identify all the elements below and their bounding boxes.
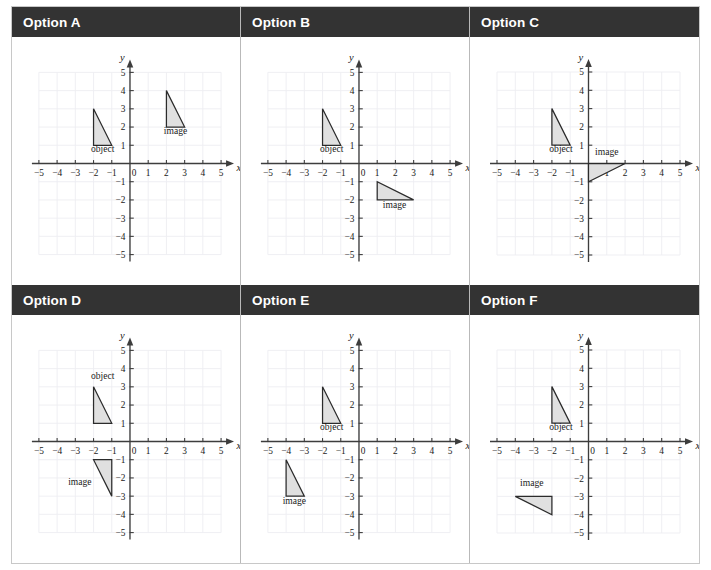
- x-axis-label: x: [236, 162, 240, 173]
- image-label: image: [164, 125, 187, 136]
- x-tick-label: 4: [201, 446, 206, 456]
- y-tick-label: 1: [350, 419, 355, 429]
- origin-label: 0: [132, 168, 137, 178]
- x-tick-label: 3: [182, 168, 187, 178]
- option-banner-c: Option C: [470, 7, 699, 37]
- y-tick-label: 3: [350, 104, 355, 114]
- x-axis-arrow: [685, 438, 693, 445]
- y-tick-label: −3: [115, 492, 125, 502]
- y-tick-label: −1: [574, 455, 584, 465]
- coordinate-plane: −5−4−3−2−11234554321−1−2−3−4−50xyobjecti…: [241, 37, 469, 285]
- x-tick-label: 2: [393, 446, 398, 456]
- y-tick-label: 4: [579, 86, 584, 96]
- option-cell-e[interactable]: Option E−5−4−3−2−11234554321−1−2−3−4−50x…: [241, 285, 470, 563]
- x-tick-label: −5: [263, 446, 273, 456]
- y-tick-label: 3: [579, 104, 584, 114]
- y-tick-label: 2: [121, 400, 126, 410]
- x-tick-label: 5: [448, 446, 453, 456]
- x-axis-label: x: [465, 440, 469, 451]
- object-label: object: [91, 143, 115, 154]
- x-axis-label: x: [236, 440, 240, 451]
- x-tick-label: 5: [219, 168, 224, 178]
- image-label: image: [68, 476, 91, 487]
- y-tick-label: −2: [344, 473, 354, 483]
- object-label: object: [320, 421, 344, 432]
- y-tick-label: 4: [350, 364, 355, 374]
- y-tick-label: 5: [579, 345, 584, 355]
- object-label: object: [549, 421, 573, 432]
- coordinate-plane: −5−4−3−2−11234554321−1−2−3−4−50xyobjecti…: [12, 315, 240, 563]
- y-tick-label: 3: [579, 382, 584, 392]
- image-label: image: [383, 199, 406, 210]
- y-axis-label: y: [119, 52, 125, 63]
- x-axis-arrow: [455, 438, 463, 445]
- x-tick-label: 4: [430, 168, 435, 178]
- y-tick-label: −2: [115, 473, 125, 483]
- y-tick-label: −5: [115, 250, 125, 260]
- option-plot-e: −5−4−3−2−11234554321−1−2−3−4−50xyobjecti…: [241, 315, 469, 563]
- option-cell-b[interactable]: Option B−5−4−3−2−11234554321−1−2−3−4−50x…: [241, 7, 470, 285]
- y-tick-label: 1: [579, 141, 584, 151]
- y-tick-label: −3: [574, 214, 584, 224]
- x-tick-label: −3: [529, 446, 539, 456]
- x-tick-label: −3: [299, 168, 309, 178]
- y-axis-label: y: [577, 52, 583, 63]
- y-axis-arrow: [356, 337, 363, 345]
- coordinate-plane: −5−4−3−2−11234554321−1−2−3−4−50xyobjecti…: [241, 315, 469, 563]
- options-page: Option A−5−4−3−2−11234554321−1−2−3−4−50x…: [0, 0, 711, 570]
- y-tick-label: 5: [350, 68, 355, 78]
- y-tick-label: −1: [115, 455, 125, 465]
- y-tick-label: −4: [574, 510, 584, 520]
- y-tick-label: −5: [574, 250, 584, 260]
- option-banner-label: Option C: [481, 15, 539, 30]
- y-tick-label: 1: [350, 141, 355, 151]
- x-axis-arrow: [226, 160, 234, 167]
- option-cell-c[interactable]: Option C−5−4−3−2−11234554321−1−2−3−4−50x…: [470, 7, 699, 285]
- y-axis-label: y: [348, 330, 354, 341]
- y-axis-arrow: [127, 59, 134, 67]
- origin-label: 0: [132, 446, 137, 456]
- x-tick-label: −3: [70, 168, 80, 178]
- x-tick-label: −3: [299, 446, 309, 456]
- x-tick-label: 4: [430, 446, 435, 456]
- y-tick-label: −1: [115, 177, 125, 187]
- option-banner-label: Option D: [23, 293, 81, 308]
- option-banner-label: Option A: [23, 15, 81, 30]
- y-tick-label: −4: [344, 510, 354, 520]
- coordinate-plane: −5−4−3−2−11234554321−1−2−3−4−50xyobjecti…: [470, 37, 699, 285]
- x-tick-label: −4: [52, 446, 62, 456]
- option-plot-c: −5−4−3−2−11234554321−1−2−3−4−50xyobjecti…: [470, 37, 699, 285]
- y-tick-label: −2: [115, 195, 125, 205]
- x-axis-label: x: [695, 162, 700, 173]
- x-tick-label: 2: [623, 446, 628, 456]
- x-tick-label: 5: [678, 168, 683, 178]
- x-tick-label: −2: [89, 168, 99, 178]
- x-tick-label: 3: [641, 446, 646, 456]
- x-tick-label: 2: [164, 168, 169, 178]
- option-cell-a[interactable]: Option A−5−4−3−2−11234554321−1−2−3−4−50x…: [12, 7, 241, 285]
- x-tick-label: 1: [146, 168, 151, 178]
- y-axis-arrow: [585, 59, 592, 67]
- x-tick-label: 5: [448, 168, 453, 178]
- object-label: object: [549, 143, 573, 154]
- x-tick-label: 5: [219, 446, 224, 456]
- option-cell-f[interactable]: Option F−5−4−3−2−11234554321−1−2−3−4−50x…: [470, 285, 699, 563]
- x-tick-label: 1: [146, 446, 151, 456]
- x-tick-label: −4: [281, 168, 291, 178]
- y-tick-label: −5: [344, 250, 354, 260]
- x-tick-label: −5: [34, 446, 44, 456]
- x-tick-label: −2: [547, 168, 557, 178]
- y-tick-label: 1: [121, 419, 126, 429]
- y-tick-label: −2: [344, 195, 354, 205]
- object-label: object: [320, 143, 344, 154]
- x-tick-label: −3: [529, 168, 539, 178]
- y-tick-label: 4: [350, 86, 355, 96]
- option-cell-d[interactable]: Option D−5−4−3−2−11234554321−1−2−3−4−50x…: [12, 285, 241, 563]
- x-tick-label: 4: [659, 168, 664, 178]
- x-tick-label: −5: [492, 168, 502, 178]
- x-tick-label: 3: [411, 446, 416, 456]
- y-tick-label: −1: [344, 177, 354, 187]
- y-axis-arrow: [585, 337, 592, 345]
- y-tick-label: −2: [574, 196, 584, 206]
- image-label: image: [283, 495, 306, 506]
